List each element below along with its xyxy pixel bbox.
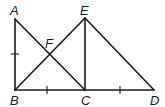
label-d: D	[150, 93, 159, 107]
geometry-diagram: A E F B C D	[0, 0, 165, 107]
label-b: B	[10, 93, 19, 107]
label-a: A	[9, 3, 19, 18]
label-c: C	[81, 93, 91, 107]
label-f: F	[45, 36, 54, 51]
diagram-svg: A E F B C D	[0, 0, 165, 107]
segment-ed	[85, 18, 154, 90]
label-e: E	[80, 3, 89, 18]
